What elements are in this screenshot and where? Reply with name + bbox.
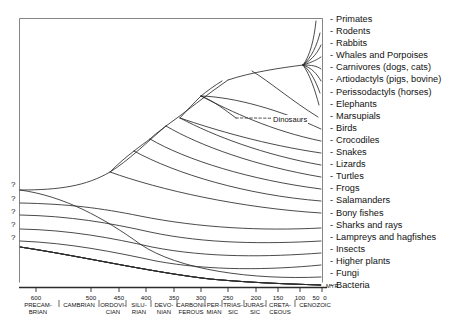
taxon-label: Whales and Porpoises	[336, 50, 428, 60]
period-triassic: TRIAS- SIC	[223, 302, 243, 317]
branch-vertebrate-stem	[20, 126, 166, 190]
taxon-label: Turtles	[336, 171, 364, 181]
axis-unit-label: MYR	[326, 283, 338, 289]
taxon-bony-fishes: -Bony fishes	[330, 207, 455, 219]
taxon-lampreys-and-hagfishes: -Lampreys and hagfishes	[330, 231, 455, 243]
period-devonian: DEVO- NIAN	[154, 302, 173, 317]
taxon-label: Lampreys and hagfishes	[336, 232, 436, 242]
uncertainty-marker-3: ?	[11, 208, 15, 216]
uncertainty-marker-2: ?	[11, 195, 15, 203]
uncertainty-marker-5: ?	[11, 234, 15, 242]
taxon-label: Fungi	[336, 268, 359, 278]
tick-label-400: 400	[141, 294, 151, 301]
taxon-primates: -Primates	[330, 13, 455, 25]
branch-frogs	[150, 139, 321, 189]
period-line-1: CAMBRIAN	[63, 302, 95, 309]
tick-label-50: 50	[313, 294, 320, 301]
taxon-whales-and-porpoises: -Whales and Porpoises	[330, 49, 455, 61]
period-line-1: CENOZOIC	[299, 302, 331, 309]
branch-tetrapod-stem	[134, 139, 150, 151]
taxon-lizards: -Lizards	[330, 158, 455, 170]
taxon-label: Bacteria	[336, 280, 370, 290]
branch-sharks-rays	[20, 203, 321, 229]
taxon-birds: -Birds	[330, 122, 455, 134]
taxon-turtles: -Turtles	[330, 170, 455, 182]
figure-canvas: ? ? ? ? ? Dinosaurs -Primates -Rodents -…	[0, 0, 455, 328]
period-line-1: TRIAS-	[223, 302, 243, 309]
branch-primates	[303, 21, 316, 65]
branch-rodents	[303, 33, 320, 65]
branch-salamanders	[134, 151, 321, 201]
lineage-paths	[20, 21, 321, 285]
taxon-label: Primates	[336, 14, 372, 24]
taxon-label: Lizards	[336, 159, 366, 169]
taxon-label: Marsupials	[336, 111, 380, 121]
tick-label-0: 0	[323, 294, 326, 301]
period-line-1: DEVO-	[154, 302, 173, 309]
taxon-label: Artiodactyls (pigs, bovine)	[336, 74, 441, 84]
taxon-label: Snakes	[336, 147, 367, 157]
tick-label-100: 100	[295, 294, 305, 301]
taxon-elephants: -Elephants	[330, 98, 455, 110]
taxon-carnivores: -Carnivores (dogs, cats)	[330, 61, 455, 73]
taxon-label: Salamanders	[336, 195, 390, 205]
tick-label-600: 600	[31, 294, 41, 301]
taxon-label: Birds	[336, 123, 357, 133]
branch-sarcopt-stem	[110, 151, 134, 172]
taxon-label: Bony fishes	[336, 208, 384, 218]
branch-amphibian-stem	[150, 126, 166, 139]
period-line-1: CRETA-	[269, 302, 291, 309]
taxon-label: Elephants	[336, 99, 377, 109]
taxon-label: Carnivores (dogs, cats)	[336, 62, 431, 72]
period-line-1: SILU-	[131, 302, 146, 309]
taxon-rodents: -Rodents	[330, 25, 455, 37]
taxon-insects: -Insects	[330, 243, 455, 255]
period-cenozoic: CENOZOIC	[299, 302, 331, 309]
period-cambrian: CAMBRIAN	[63, 302, 95, 309]
taxon-marsupials: -Marsupials	[330, 110, 455, 122]
taxon-salamanders: -Salamanders	[330, 194, 455, 206]
dinosaurs-annotation: Dinosaurs	[272, 115, 308, 124]
branch-turtles	[166, 126, 321, 177]
branch-bacteria	[20, 247, 321, 285]
taxon-label: Higher plants	[336, 256, 390, 266]
taxon-bacteria: -Bacteria	[330, 279, 455, 291]
period-ordovician: ORDOVI- CIAN	[100, 302, 126, 317]
taxon-label: Rodents	[336, 26, 370, 36]
period-carboniferous: CARBONI- FEROUS	[176, 302, 205, 317]
branch-amniote-trunk	[166, 80, 228, 126]
period-silurian: SILU- RIAN	[131, 302, 146, 317]
period-cretaceous: CRETA- CEOUS	[269, 302, 291, 317]
period-precambrian: PRECAM- BRIAN	[24, 302, 52, 317]
taxon-perissodactyls: -Perissodactyls (horses)	[330, 86, 455, 98]
branch-fungi	[20, 190, 321, 278]
period-line-2: BRIAN	[24, 309, 52, 316]
branch-lepidosaur-stem	[180, 96, 201, 118]
branch-bony-fishes	[110, 172, 321, 213]
taxon-label: Frogs	[336, 183, 360, 193]
tick-label-200: 200	[251, 294, 261, 301]
taxon-label-list: -Primates -Rodents -Rabbits -Whales and …	[330, 13, 455, 291]
taxon-crocodiles: -Crocodiles	[330, 134, 455, 146]
period-line-2: SIC	[244, 309, 266, 316]
period-line-2: CIAN	[100, 309, 126, 316]
taxon-snakes: -Snakes	[330, 146, 455, 158]
tick-label-350: 350	[169, 294, 179, 301]
period-line-1: PER-	[207, 302, 222, 309]
uncertainty-marker-4: ?	[11, 221, 15, 229]
taxon-label: Sharks and rays	[336, 220, 402, 230]
branch-archosaur-stem	[201, 81, 222, 96]
period-line-2: SIC	[223, 309, 243, 316]
period-line-1: ORDOVI-	[100, 302, 126, 309]
taxon-label: Perissodactyls (horses)	[336, 87, 431, 97]
taxon-rabbits: -Rabbits	[330, 37, 455, 49]
period-line-1: JURAS-	[244, 302, 266, 309]
period-line-1: PRECAM-	[24, 302, 52, 309]
tick-label-500: 500	[86, 294, 96, 301]
taxon-artiodactyls: -Artiodactyls (pigs, bovine)	[330, 73, 455, 85]
taxon-label: Crocodiles	[336, 135, 379, 145]
period-jurassic: JURAS- SIC	[244, 302, 266, 317]
period-line-2: CEOUS	[269, 309, 291, 316]
period-line-2: FEROUS	[176, 309, 205, 316]
taxon-label: Rabbits	[336, 38, 367, 48]
